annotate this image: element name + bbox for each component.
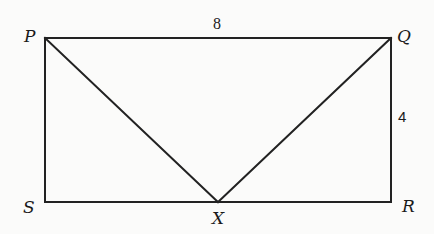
edge-qx [218, 38, 391, 202]
vertex-label-p: P [23, 26, 36, 46]
rectangle-diagram: P Q S X R 8 4 [0, 0, 434, 234]
edge-px [45, 38, 218, 202]
vertex-label-x: X [210, 208, 225, 228]
vertex-label-q: Q [397, 26, 411, 46]
vertex-label-r: R [401, 196, 415, 216]
vertex-label-s: S [23, 197, 35, 217]
measurement-pq: 8 [213, 15, 221, 32]
measurement-qr: 4 [398, 108, 406, 125]
